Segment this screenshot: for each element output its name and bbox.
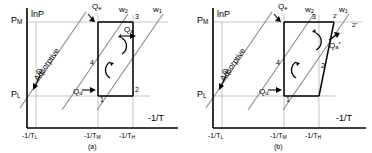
state-point-4-a: 4 [90,59,94,66]
qd-arrowhead-b [276,87,282,93]
heat-label-qe-b: Qe [278,3,287,12]
cycle-arrowheads-a [110,34,122,66]
pressure-label-pm-a: PM [11,16,22,26]
x-axis-label-b: -1/T [336,114,352,123]
panel-caption-b: (b) [274,143,283,150]
heat-label-qd-b: Qd [259,88,268,97]
pressure-label-pl-b: PL [197,90,207,100]
axes-b [213,8,366,128]
temperature-label-th-b: -1/TH [305,132,321,140]
state-point-3-b: 3 [312,13,316,20]
cycle-arrowhead-upper-b [312,29,316,33]
state-point-2prime-b: 2' [333,13,337,19]
panel-b: lnP PM PL Adsorptive w2 w1 Qe Qc Qd Qa* … [186,0,372,153]
state-point-4-b: 4 [276,59,280,66]
isostere-label-w2-a: w2 [119,6,128,15]
figure-container: lnP PM PL Adsorptive w2 w1 Qe Qc Qd Qa 1… [0,0,372,153]
y-axis-label-b: lnP [217,10,230,19]
qd-arrowhead-a [90,87,96,93]
state-point-1-b: 1 [286,96,290,103]
heat-label-qe-a: Qe [92,3,101,12]
cycle-arrowheads-b [296,29,316,66]
temperature-label-tl-a: -1/TL [22,132,37,140]
cycle-arrow-lower-a [106,62,111,78]
temperature-label-tl-b: -1/TL [208,132,223,140]
panel-a: lnP PM PL Adsorptive w2 w1 Qe Qc Qd Qa 1… [0,0,186,153]
cycle-arrowhead-lower-b [296,62,300,66]
panel-a-svg [0,0,186,153]
temperature-label-tm-b: -1/TM [270,132,287,140]
heat-label-qc-a: Qc [36,68,45,77]
cycle-path-b [284,22,334,96]
state-point-2doubleprime-b: 2" [352,22,357,28]
guide-lines-b [213,15,362,128]
state-point-1-a: 1 [100,96,104,103]
cycle-arrow-lower-b [292,62,297,78]
x-axis-label-a: -1/T [148,114,164,123]
temperature-label-th-a: -1/TH [119,132,135,140]
segment-2-2prime-b [319,22,334,96]
isostere-label-w1-a: w1 [153,6,162,15]
state-point-3-a: 3 [135,13,139,20]
state-point-2-a: 2 [135,86,139,93]
panel-b-graphic [186,0,372,153]
heat-label-qa-a: Qa [124,26,133,35]
pressure-label-pm-b: PM [197,16,208,26]
cycle-arrowhead-upper-a [118,34,122,38]
y-axis-label-a: lnP [31,10,44,19]
temperature-label-tm-a: -1/TM [84,132,101,140]
heat-label-qc-b: Qc [222,68,231,77]
heat-label-qa-b: Qa* [329,42,341,51]
panel-a-graphic [0,0,186,153]
isostere-label-w1-b: w1 [339,6,348,15]
cycle-arrow-upper-a [122,38,127,54]
panel-caption-a: (a) [88,143,97,150]
cycle-arrowhead-lower-a [110,62,114,66]
state-point-2-b: 2 [321,62,325,69]
panel-b-svg [186,0,372,153]
heat-label-qd-a: Qd [73,88,82,97]
pressure-label-pl-a: PL [11,90,21,100]
